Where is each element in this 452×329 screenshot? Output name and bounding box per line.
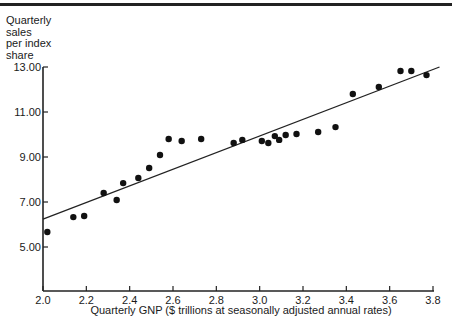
x-tick-label: 3.6 (382, 294, 397, 306)
data-point (265, 140, 271, 146)
y-tick-label: 9.00 (20, 151, 41, 163)
data-point (293, 131, 299, 137)
data-point (70, 214, 76, 220)
x-tick-label: 3.2 (295, 294, 310, 306)
scatter-plot: 13.0011.009.007.005.002.02.22.42.62.83.0… (0, 0, 452, 329)
axes: 13.0011.009.007.005.002.02.22.42.62.83.0… (13, 61, 440, 306)
data-point (315, 129, 321, 135)
y-tick-label: 5.00 (20, 241, 41, 253)
data-point (282, 132, 288, 138)
data-point (397, 68, 403, 74)
x-tick-label: 2.0 (35, 294, 50, 306)
data-point (423, 72, 429, 78)
data-point (230, 140, 236, 146)
data-point (408, 68, 414, 74)
x-tick-label: 2.6 (165, 294, 180, 306)
data-point (259, 138, 265, 144)
data-point (100, 190, 106, 196)
data-point (135, 175, 141, 181)
y-tick-label: 13.00 (13, 61, 41, 73)
x-tick-label: 3.8 (425, 294, 440, 306)
data-point (120, 180, 126, 186)
data-point (157, 152, 163, 158)
data-point (113, 197, 119, 203)
y-tick-label: 11.00 (14, 106, 41, 118)
data-point (165, 136, 171, 142)
data-point (178, 138, 184, 144)
data-point (198, 136, 204, 142)
x-tick-label: 2.2 (79, 294, 94, 306)
data-point (332, 124, 338, 130)
x-tick-label: 3.0 (252, 294, 267, 306)
x-tick-label: 3.4 (339, 294, 354, 306)
data-point (350, 91, 356, 97)
y-tick-label: 7.00 (20, 196, 41, 208)
data-point (239, 137, 245, 143)
data-point (276, 137, 282, 143)
data-point (81, 213, 87, 219)
data-point (146, 165, 152, 171)
x-tick-label: 2.4 (122, 294, 137, 306)
data-point (376, 84, 382, 90)
data-point (44, 229, 50, 235)
x-tick-label: 2.8 (209, 294, 224, 306)
